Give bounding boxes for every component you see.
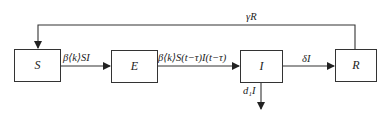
node-s: S — [14, 49, 61, 82]
edge-e-to-i-label: β⟨k⟩S(t−τ)I(t−τ) — [158, 53, 226, 64]
node-e: E — [111, 50, 158, 83]
edge-s-to-e-label: β⟨k⟩SI — [63, 53, 90, 64]
edge-i-out-label: d₁I — [243, 86, 255, 97]
node-r-label: R — [352, 58, 359, 73]
node-i-label: I — [260, 59, 264, 74]
edge-r-to-s — [38, 25, 355, 49]
edge-r-to-s-label: γR — [246, 12, 257, 23]
node-e-label: E — [131, 59, 138, 74]
node-s-label: S — [35, 58, 41, 73]
node-i: I — [240, 50, 283, 83]
node-r: R — [335, 49, 377, 82]
edge-i-to-r-label: δI — [302, 54, 310, 65]
